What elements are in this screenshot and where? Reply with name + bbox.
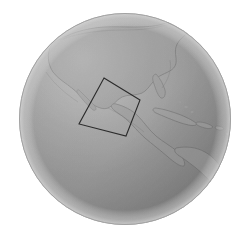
globe-stage [0,0,241,238]
globe-viewport [0,0,241,238]
surface-grain [19,13,231,225]
globe-render[interactable] [0,0,241,238]
